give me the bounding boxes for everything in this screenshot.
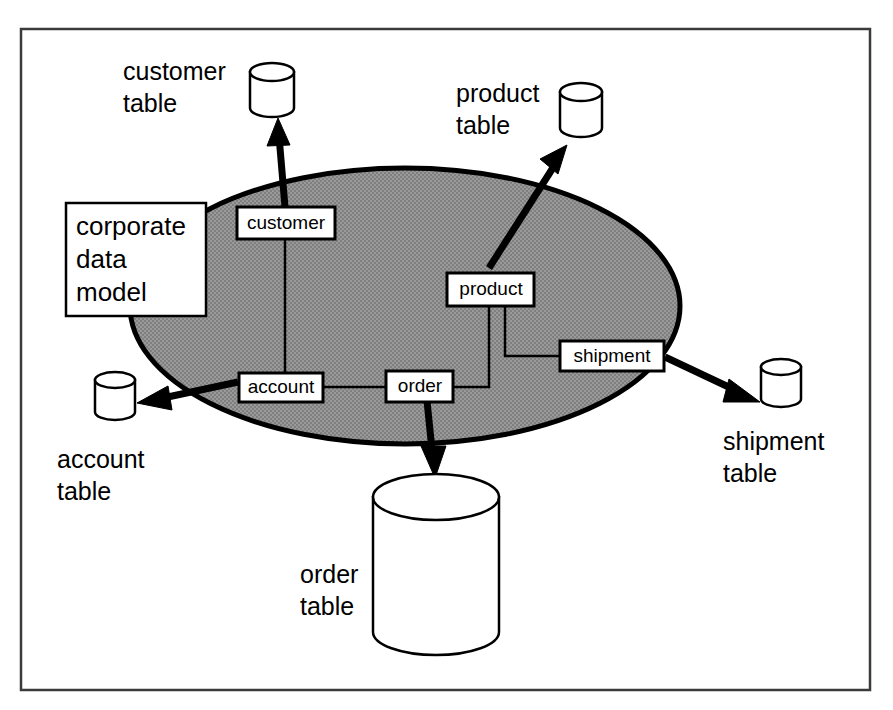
label-product-table-line-1: product	[456, 79, 539, 107]
entity-label-shipment: shipment	[573, 345, 651, 366]
entity-box-product[interactable]: product	[447, 273, 534, 306]
label-shipment-table-line-1: shipment	[723, 427, 824, 455]
cdm-label-line-3: model	[76, 277, 147, 307]
cylinder-shipment-table[interactable]	[761, 359, 801, 407]
label-customer-table-line-2: table	[123, 89, 177, 117]
entity-box-account[interactable]: account	[239, 373, 323, 402]
cylinder-customer-table[interactable]	[250, 63, 294, 117]
label-order-table-line-2: table	[300, 592, 354, 620]
entity-label-order: order	[398, 375, 443, 396]
cylinder-product-table[interactable]	[560, 83, 602, 137]
label-shipment-table-line-2: table	[723, 459, 777, 487]
cylinder-account-table[interactable]	[95, 372, 135, 420]
entity-label-customer: customer	[247, 212, 326, 233]
label-account-table-line-1: account	[57, 445, 145, 473]
label-account-table-line-2: table	[57, 477, 111, 505]
entity-label-account: account	[248, 376, 315, 397]
cdm-label-line-2: data	[76, 244, 127, 274]
cdm-label-line-1: corporate	[76, 211, 186, 241]
entity-box-order[interactable]: order	[386, 371, 453, 402]
corporate-data-model-diagram: customer account order product shipment …	[0, 0, 893, 710]
entity-label-product: product	[459, 278, 523, 299]
entity-box-customer[interactable]: customer	[237, 207, 335, 239]
corporate-data-model-box[interactable]: corporate data model	[66, 203, 206, 316]
cylinder-order-table[interactable]	[373, 474, 499, 655]
mapping-arrow-shipment	[665, 357, 760, 402]
label-customer-table-line-1: customer	[123, 57, 226, 85]
label-order-table-line-1: order	[300, 560, 358, 588]
label-product-table-line-2: table	[456, 111, 510, 139]
entity-box-shipment[interactable]: shipment	[560, 341, 664, 371]
diagram-canvas: customer account order product shipment …	[0, 0, 893, 710]
